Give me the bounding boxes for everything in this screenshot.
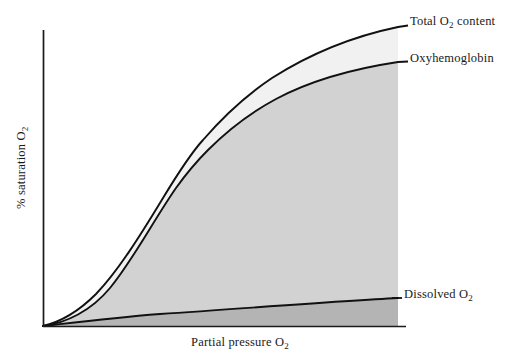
y-axis-title-subscript: 2 (20, 127, 30, 132)
curve-label-oxyhemoglobin-text: Oxyhemoglobin (410, 51, 494, 65)
chart-page: Total O2 content Oxyhemoglobin Dissolved… (0, 0, 518, 363)
curve-label-oxyhemoglobin: Oxyhemoglobin (410, 51, 494, 66)
y-axis-title: % saturation O2 (14, 108, 30, 228)
area-oxyhemoglobin (43, 62, 398, 326)
x-axis-title-subscript: 2 (284, 341, 289, 351)
curve-label-total-tail: content (454, 14, 496, 28)
curve-label-total-text: Total O (410, 14, 449, 28)
x-axis-title-text: Partial pressure O (191, 335, 284, 349)
curve-label-dissolved-o2: Dissolved O2 (404, 287, 473, 303)
curve-label-dissolved-subscript: 2 (468, 293, 473, 303)
y-axis-title-text: % saturation O (14, 131, 28, 209)
curve-label-dissolved-text: Dissolved O (404, 287, 468, 301)
curve-label-total-o2-content: Total O2 content (410, 14, 495, 30)
x-axis-title: Partial pressure O2 (150, 335, 330, 351)
leader-line-oxyhemoglobin (398, 62, 408, 63)
leader-line-total (398, 26, 408, 28)
